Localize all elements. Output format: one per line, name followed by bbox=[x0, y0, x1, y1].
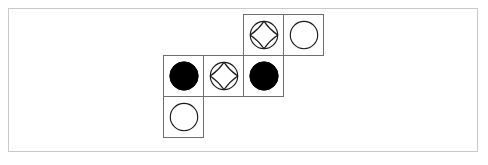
board-cell[interactable] bbox=[283, 14, 324, 56]
star-in-circle-icon bbox=[248, 19, 280, 51]
white-circle-icon bbox=[168, 101, 200, 133]
board-cell[interactable] bbox=[163, 55, 204, 97]
board-cell[interactable] bbox=[203, 55, 244, 97]
board-cell[interactable] bbox=[243, 55, 284, 97]
board-cell[interactable] bbox=[243, 14, 284, 56]
white-circle-icon bbox=[288, 19, 320, 51]
black-circle-icon bbox=[248, 60, 280, 92]
screenshot-canvas bbox=[0, 0, 488, 165]
star-in-circle-icon bbox=[208, 60, 240, 92]
black-circle-icon bbox=[168, 60, 200, 92]
board-cell[interactable] bbox=[163, 96, 204, 138]
